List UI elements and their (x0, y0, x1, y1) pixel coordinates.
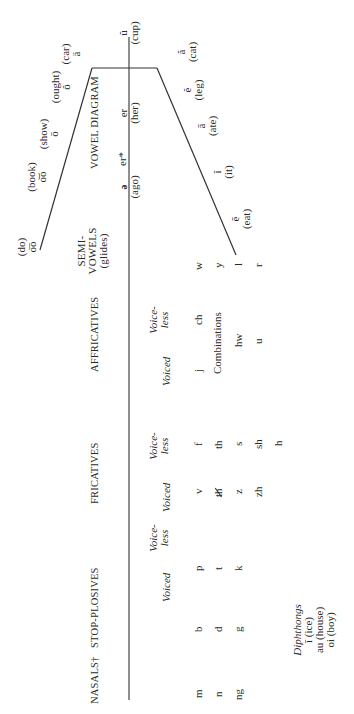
semivowel-r: r (252, 263, 264, 267)
stop-voiced-b: b (192, 627, 204, 633)
fricative-voiced-zh: zh (252, 487, 264, 497)
vowel-word: (leg) (193, 75, 204, 105)
phonetic-chart: NASALS† STOP-PLOSIVES FRICATIVES AFFRICA… (0, 0, 354, 714)
vowel-word: (cat) (187, 37, 198, 67)
vowel-cat: ă (cat) (176, 37, 198, 67)
fricative-voiceless-f: f (192, 442, 204, 446)
vowel-cup: ŭ (cup) (118, 18, 140, 48)
vowel-ate: ā (ate) (196, 111, 218, 141)
fricative-voiced-label: Voiced (160, 483, 172, 512)
header-nasals: NASALS† (89, 657, 101, 705)
vowel-car: (car) ä (60, 40, 82, 68)
header-fricatives: FRICATIVES (89, 442, 101, 504)
vowel-do: (do) o͞o (16, 234, 38, 260)
vowel-word: (eat) (241, 204, 252, 234)
vowel-word: (ate) (207, 111, 218, 141)
vowel-symbol: o͝o (37, 160, 48, 194)
diphthongs-block: Diphthongs ī (ice) au (house) oi (boy) (292, 594, 336, 666)
vowel-eat: ē (eat) (230, 204, 252, 234)
stop-voiced-d: d (212, 627, 224, 633)
header-vowel-diagram: VOWEL DIAGRAM (89, 76, 101, 169)
fricative-voiced-v: v (192, 489, 204, 495)
vowel-word: (it) (223, 160, 234, 184)
vowel-book: (book) o͝o (26, 160, 48, 194)
vowel-her: er (her) (118, 96, 140, 130)
fricative-voiced-z: z (232, 489, 244, 494)
voiceless-line2: less (159, 430, 170, 462)
vowel-leg: ĕ (leg) (182, 75, 204, 105)
vowel-symbol: o͞o (27, 234, 38, 260)
semivowel-y: y (212, 263, 224, 269)
stop-voiceless-t: t (212, 567, 224, 570)
stop-voiceless-label: Voice- less (148, 522, 170, 554)
nasal-ng: ng (232, 689, 244, 700)
vowel-ought: (ought) ô (50, 66, 72, 108)
fricative-voiceless-s: s (232, 442, 244, 446)
vowel-word: (her) (129, 96, 140, 130)
affricative-voiced-label: Voiced (160, 357, 172, 386)
combinations-label: Combinations (211, 312, 223, 374)
affricative-voiced-j: j (192, 369, 204, 372)
combination-hw: hw (232, 334, 244, 347)
diphthong-boy: oi (boy) (325, 594, 336, 666)
fricative-voiceless-th: th (212, 440, 224, 449)
semivowel-l: l (232, 263, 244, 266)
affricative-voiceless-ch: ch (192, 315, 204, 325)
voiceless-line2: less (159, 304, 170, 336)
stop-voiced-label: Voiced (160, 573, 172, 602)
stop-voiceless-p: p (192, 566, 204, 572)
fricative-voiceless-sh: sh (252, 439, 264, 449)
header-affricatives: AFFRICATIVES (89, 297, 101, 372)
vowel-symbol: ä (71, 40, 82, 68)
stop-voiceless-k: k (232, 566, 244, 572)
vowel-symbol: ô (61, 66, 72, 108)
nasal-n: n (212, 692, 224, 698)
fricative-voiceless-h: h (272, 441, 284, 447)
vowel-ago: ə (ago) (118, 172, 140, 202)
vowel-symbol: ō (49, 116, 60, 152)
stop-voiced-g: g (232, 627, 244, 633)
vowel-it: ĭ (it) (212, 160, 234, 184)
voiceless-line2: less (159, 522, 170, 554)
vowel-word: (ago) (129, 172, 140, 202)
semivowels-line3: (glides) (98, 226, 109, 276)
affricative-voiceless-label: Voice- less (148, 304, 170, 336)
vowel-word: (cup) (129, 18, 140, 48)
vowel-er-star: er* (116, 152, 128, 166)
nasal-m: m (192, 689, 204, 698)
fricative-voiced-th: th (212, 488, 224, 497)
vowel-show: (show) ō (38, 116, 60, 152)
header-stop-plosives: STOP-PLOSIVES (89, 567, 101, 648)
th-voiced-strikethrough: th (212, 488, 224, 497)
fricative-voiceless-label: Voice- less (148, 430, 170, 462)
semivowel-w: w (192, 262, 204, 270)
header-semivowels: SEMI- VOWELS (glides) (76, 226, 109, 276)
combination-u: u (252, 339, 264, 345)
